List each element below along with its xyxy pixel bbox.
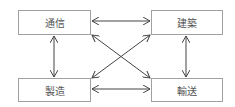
node-label: 製造	[45, 83, 65, 98]
node-seizo: 製造	[18, 78, 91, 102]
node-label: 建築	[177, 15, 197, 30]
node-tsushin: 通信	[18, 10, 91, 35]
node-yuso: 輸送	[151, 78, 223, 102]
node-label: 輸送	[177, 83, 197, 98]
node-kenchiku: 建築	[151, 10, 223, 35]
node-label: 通信	[45, 15, 65, 30]
